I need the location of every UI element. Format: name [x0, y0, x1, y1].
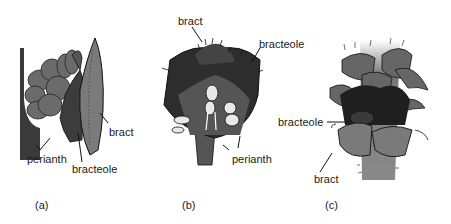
label-bracteole: bracteole [259, 38, 304, 50]
figure-c: bracteole bract (c) [300, 0, 451, 224]
label-bract: bract [178, 15, 202, 27]
label-bracteole: bracteole [72, 163, 117, 175]
caption-b: (b) [182, 199, 195, 211]
figure-b-illustration [140, 0, 300, 224]
figure-c-illustration [300, 0, 451, 224]
caption-a: (a) [35, 199, 48, 211]
label-bracteole: bracteole [278, 116, 323, 128]
label-perianth: perianth [232, 153, 272, 165]
label-bract: bract [314, 173, 338, 185]
figure-a: bract perianth bracteole (a) [0, 0, 150, 224]
figure-a-illustration [0, 0, 150, 224]
figure-b: bract bracteole perianth (b) [140, 0, 300, 224]
label-perianth: perianth [27, 153, 67, 165]
label-bract: bract [109, 126, 133, 138]
caption-c: (c) [325, 199, 338, 211]
